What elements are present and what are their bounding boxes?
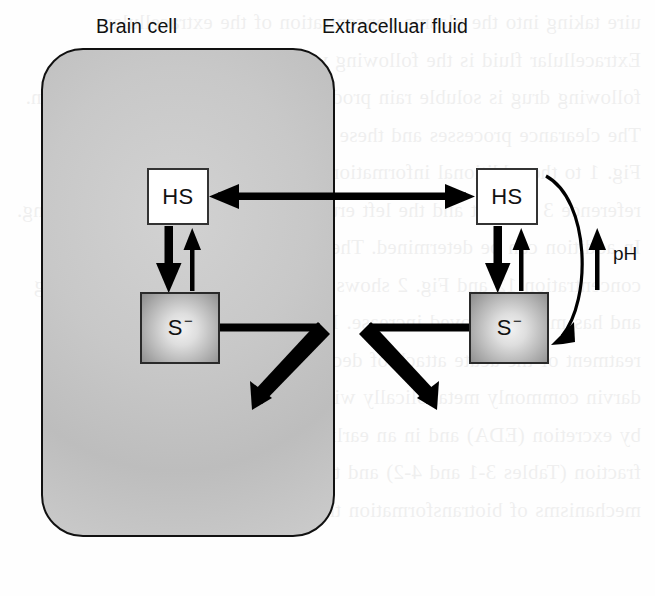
diagram-canvas: uire taking into the plasma concentratio… <box>0 0 655 596</box>
box-hs-intracellular-label: HS <box>162 184 194 210</box>
box-hs-extracellular-label: HS <box>491 184 523 210</box>
box-s-minus-extracellular-label: S <box>497 315 512 341</box>
label-ph: pH <box>613 243 637 265</box>
label-extracellular-fluid: Extracelluar fluid <box>322 15 468 38</box>
arrow-ph-increase <box>589 228 607 290</box>
box-s-minus-extracellular: S− <box>469 292 549 364</box>
label-brain-cell: Brain cell <box>96 15 177 38</box>
box-hs-intracellular: HS <box>147 168 209 225</box>
box-hs-extracellular: HS <box>476 168 538 225</box>
box-s-minus-intracellular: S− <box>140 292 220 364</box>
box-s-minus-intracellular-label: S <box>168 315 183 341</box>
arrow-hs-to-s-extracellular <box>485 226 511 293</box>
arrow-s-elimination-extracellular <box>359 322 469 410</box>
arrow-s-to-hs-extracellular <box>513 228 531 291</box>
arrow-ph-curved <box>546 176 582 345</box>
